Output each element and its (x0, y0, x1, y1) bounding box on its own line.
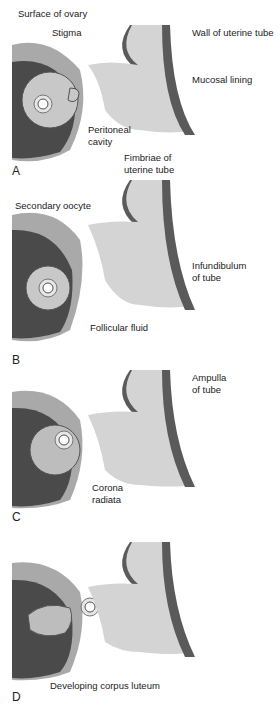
label-corona-line1: Corona (92, 482, 123, 494)
label-developing-corpus-luteum: Developing corpus luteum (50, 680, 160, 692)
label-infundibulum-line1: Infundibulum (192, 260, 246, 272)
panel-letter-a: A (12, 164, 20, 178)
label-corona-line2: radiata (92, 494, 121, 506)
label-ampulla-line1: Ampulla (192, 372, 226, 384)
panel-a: Surface of ovary Stigma Wall of uterine … (0, 0, 280, 180)
panel-c: Ampulla of tube Corona radiata C (0, 360, 280, 530)
panel-letter-c: C (12, 510, 21, 524)
panel-d: Developing corpus luteum D (0, 530, 280, 709)
label-peritoneal-cavity-line1: Peritoneal (88, 124, 131, 136)
label-follicular-fluid: Follicular fluid (90, 322, 148, 334)
panel-c-illustration (0, 360, 280, 530)
label-fimbriae-line2: uterine tube (124, 164, 174, 176)
panel-b: Secondary oocyte Infundibulum of tube Fo… (0, 180, 280, 360)
label-surface-of-ovary: Surface of ovary (18, 8, 87, 20)
label-stigma: Stigma (52, 27, 82, 39)
label-fimbriae-line1: Fimbriae of (124, 152, 172, 164)
label-infundibulum-line2: of tube (192, 272, 221, 284)
label-peritoneal-cavity-line2: cavity (88, 136, 112, 148)
label-ampulla-line2: of tube (192, 384, 221, 396)
label-secondary-oocyte: Secondary oocyte (15, 200, 91, 212)
label-wall-of-uterine-tube: Wall of uterine tube (192, 27, 274, 39)
label-mucosal-lining: Mucosal lining (192, 74, 252, 86)
panel-letter-d: D (12, 690, 21, 704)
